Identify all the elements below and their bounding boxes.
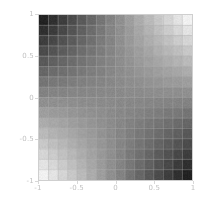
y-tick-mark (35, 98, 38, 99)
x-tick-label: 1 (191, 185, 196, 192)
plot-area (38, 14, 193, 181)
y-tick-label: -1 (27, 178, 34, 185)
density-heatmap-canvas (39, 15, 192, 180)
y-tick-label: 1 (29, 11, 34, 18)
y-tick-mark (35, 181, 38, 182)
y-tick-mark (35, 139, 38, 140)
x-tick-label: -0.5 (70, 185, 84, 192)
x-tick-mark (77, 181, 78, 184)
y-tick-label: 0 (29, 94, 34, 101)
y-tick-label: 0.5 (22, 52, 34, 59)
y-tick-mark (35, 14, 38, 15)
density-plot-figure: -1-0.500.51 -1-0.500.51 (0, 0, 211, 206)
x-tick-mark (193, 181, 194, 184)
x-tick-label: -1 (34, 185, 41, 192)
x-tick-mark (38, 181, 39, 184)
x-tick-label: 0 (113, 185, 118, 192)
y-tick-label: -0.5 (20, 136, 34, 143)
y-tick-mark (35, 56, 38, 57)
x-tick-label: 0.5 (148, 185, 160, 192)
x-tick-mark (154, 181, 155, 184)
x-tick-mark (116, 181, 117, 184)
